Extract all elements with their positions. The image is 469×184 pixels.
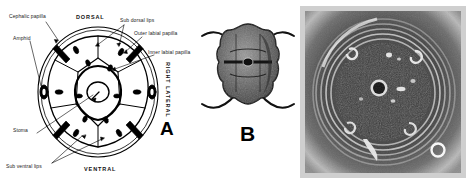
- panel-c-drawing: [305, 11, 461, 173]
- label-sub-dorsal-lips: Sub dorsal lips: [120, 18, 154, 23]
- panel-b-drawing: [196, 0, 300, 184]
- label-ventral: VENTRAL: [84, 166, 116, 172]
- label-cephalic-papilla: Cephalic papilla: [9, 14, 46, 19]
- label-amphid: Amphid: [13, 36, 31, 41]
- panel-c-sem-micrograph: [300, 6, 466, 178]
- panel-c-image: [305, 11, 461, 173]
- label-dorsal: DORSAL: [76, 14, 105, 20]
- label-inner-labial-papilla: Inner labial papilla: [148, 50, 190, 55]
- label-outer-labial-papilla: Outer labial papilla: [134, 31, 177, 36]
- label-stoma: Stoma: [13, 128, 28, 133]
- label-right-lateral: RIGHT LATERAL: [165, 62, 171, 118]
- label-sub-ventral-lips: Sub ventral lips: [6, 164, 42, 169]
- panel-letter-b: B: [240, 122, 255, 146]
- figure-plate: Cephalic papilla Amphid Stoma Sub ventra…: [0, 0, 469, 184]
- panel-a-diagram: Cephalic papilla Amphid Stoma Sub ventra…: [0, 0, 196, 184]
- panel-b-micrograph: B: [196, 0, 300, 184]
- panel-letter-a: A: [160, 118, 174, 140]
